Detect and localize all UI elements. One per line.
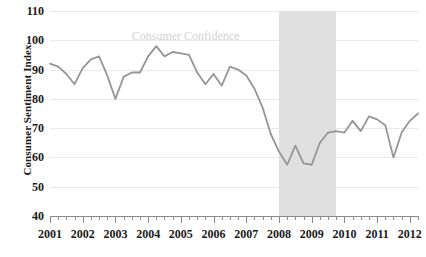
y-axis-tick-label: 70 <box>16 122 44 134</box>
x-axis-minor-tick <box>287 216 288 220</box>
x-axis-major-tick <box>148 216 149 223</box>
x-axis-major-tick <box>312 216 313 223</box>
x-axis-major-tick <box>377 216 378 223</box>
x-axis-minor-tick <box>328 216 329 220</box>
x-axis-minor-tick <box>418 216 419 220</box>
x-axis-minor-tick <box>132 216 133 220</box>
x-axis-major-tick <box>246 216 247 223</box>
x-axis-major-tick <box>50 216 51 223</box>
x-axis-minor-tick <box>173 216 174 220</box>
x-axis-minor-tick <box>393 216 394 220</box>
y-axis-tick-label: 100 <box>16 34 44 46</box>
x-axis-minor-tick <box>66 216 67 220</box>
x-axis-minor-tick <box>402 216 403 220</box>
x-axis-minor-tick <box>99 216 100 220</box>
x-axis-minor-tick <box>320 216 321 220</box>
x-axis-minor-tick <box>353 216 354 220</box>
y-axis-tick-label: 60 <box>16 151 44 163</box>
x-axis-minor-tick <box>58 216 59 220</box>
x-axis-minor-tick <box>230 216 231 220</box>
x-axis-tick-label: 2012 <box>390 227 426 241</box>
x-axis-minor-tick <box>304 216 305 220</box>
x-axis-major-tick <box>214 216 215 223</box>
x-axis-minor-tick <box>164 216 165 220</box>
x-axis-tick-labels: 2001200220032004200520062007200820092010… <box>50 227 418 247</box>
x-axis-minor-tick <box>197 216 198 220</box>
x-axis-minor-tick <box>369 216 370 220</box>
y-axis-tick-label: 90 <box>16 64 44 76</box>
x-axis-major-tick <box>344 216 345 223</box>
x-axis-minor-tick <box>271 216 272 220</box>
x-axis-minor-tick <box>124 216 125 220</box>
consumer-confidence-annotation: Consumer Confidence <box>132 29 240 44</box>
x-axis-major-tick <box>83 216 84 223</box>
x-axis-minor-tick <box>156 216 157 220</box>
x-axis-minor-tick <box>75 216 76 220</box>
y-axis-tick-label: 50 <box>16 181 44 193</box>
x-axis-minor-tick <box>91 216 92 220</box>
x-axis-minor-tick <box>263 216 264 220</box>
x-axis-minor-tick <box>205 216 206 220</box>
y-axis-tick-label: 80 <box>16 93 44 105</box>
x-axis-minor-tick <box>336 216 337 220</box>
x-axis-minor-tick <box>222 216 223 220</box>
x-axis-minor-tick <box>295 216 296 220</box>
y-axis-tick-labels: 110100908070605040 <box>12 0 44 257</box>
x-axis-minor-tick <box>189 216 190 220</box>
x-axis-major-tick <box>410 216 411 223</box>
x-axis-minor-tick <box>107 216 108 220</box>
x-axis-minor-tick <box>385 216 386 220</box>
x-axis-major-tick <box>181 216 182 223</box>
y-axis-tick-label: 40 <box>16 210 44 222</box>
x-axis-minor-tick <box>140 216 141 220</box>
x-axis-ticks <box>50 216 418 224</box>
x-axis-major-tick <box>279 216 280 223</box>
y-axis-tick-label: 110 <box>16 5 44 17</box>
x-axis-minor-tick <box>238 216 239 220</box>
plot-area: Consumer Confidence <box>50 11 418 216</box>
x-axis-minor-tick <box>361 216 362 220</box>
x-axis-minor-tick <box>254 216 255 220</box>
x-axis-major-tick <box>115 216 116 223</box>
